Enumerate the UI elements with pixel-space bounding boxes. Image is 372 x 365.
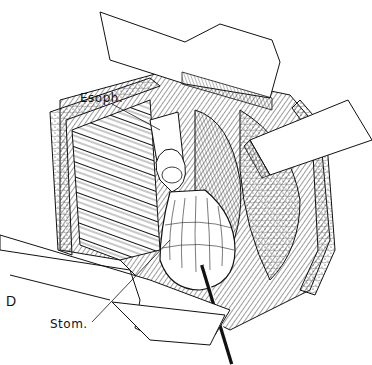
esophagus-label: Esoph. [80,91,123,105]
surgical-illustration [0,0,372,365]
panel-letter: D [6,293,16,309]
stomach-label: Stom. [50,317,88,331]
